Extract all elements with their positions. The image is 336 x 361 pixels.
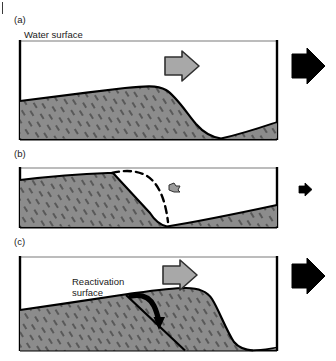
diagram-svg <box>0 0 336 361</box>
panel-b-discharge-arrow-icon <box>299 183 312 196</box>
panel-a-flow-arrow-icon <box>165 51 199 81</box>
panel-c-discharge-arrow-icon <box>292 258 325 294</box>
panel-b <box>20 167 312 228</box>
panel-c <box>20 256 325 351</box>
panel-a-dune-body <box>20 86 219 138</box>
panel-b-flow-arrow-icon <box>169 183 180 192</box>
panel-b-dune-body <box>20 173 166 227</box>
figure-root: (a) Water surface (b) (c) Reactivationsu… <box>0 0 336 361</box>
panel-a-sediment-group <box>20 86 277 138</box>
panel-c-flow-arrow-icon <box>163 260 197 290</box>
panel-b-sediment-group <box>20 173 277 227</box>
panel-a <box>20 40 325 140</box>
panel-a-discharge-arrow-icon <box>292 48 325 84</box>
